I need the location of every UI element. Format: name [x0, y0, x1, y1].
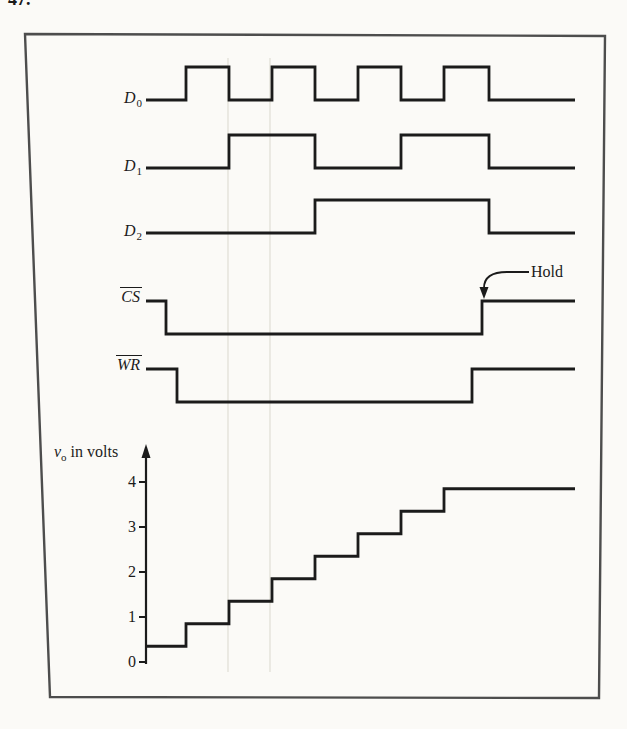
signal-label-cs-bar: CS [104, 287, 142, 306]
signal-label-d0: D0 [104, 89, 142, 112]
signal-label-d1-base: D [124, 157, 136, 174]
vo-axis-tick-label-3: 3 [106, 517, 136, 537]
textbook-figure-page: 47. D0 D1 D2 CS WR Hold vo in volts 0123… [0, 0, 627, 729]
vo-axis-tick-label-1: 1 [106, 607, 136, 627]
hold-arrow-line [484, 272, 529, 288]
signal-label-d1: D1 [104, 157, 142, 180]
signal-label-d0-sub: 0 [137, 97, 143, 109]
waveform-wr [146, 369, 575, 402]
hold-annotation-label: Hold [531, 263, 563, 281]
timing-diagram-svg [0, 0, 627, 729]
waveform-cs [146, 301, 575, 334]
signal-label-d2: D2 [104, 222, 142, 245]
signal-label-wr-bar: WR [104, 355, 142, 374]
signal-label-d2-base: D [124, 222, 136, 239]
vo-axis-arrowhead [142, 444, 151, 458]
problem-number: 47. [8, 0, 31, 10]
signal-label-cs-base: CS [121, 288, 140, 305]
waveform-d1 [146, 135, 575, 168]
hold-arrowhead [480, 287, 489, 299]
signal-label-d0-base: D [124, 89, 136, 106]
signal-label-d1-sub: 1 [137, 165, 143, 177]
waveform-d0 [146, 67, 575, 100]
signal-label-wr-base: WR [117, 356, 140, 373]
vo-axis-tick-label-0: 0 [106, 652, 136, 672]
vo-axis-label: vo in volts [54, 443, 118, 463]
waveform-d2 [146, 200, 575, 233]
vo-axis-tick-label-4: 4 [106, 472, 136, 492]
vo-axis-tick-label-2: 2 [106, 562, 136, 582]
vo-axis-label-rest: in volts [67, 443, 119, 460]
staircase-output-waveform [146, 489, 575, 647]
signal-label-d2-sub: 2 [137, 230, 143, 242]
